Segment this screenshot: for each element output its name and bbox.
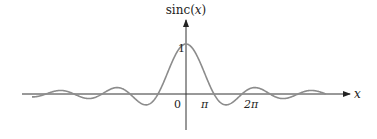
y-axis-label: sinc(x) [166, 3, 207, 17]
x-axis-label: x [354, 87, 361, 101]
x-tick-2pi: 2π [243, 98, 259, 111]
y-tick-1: 1 [178, 42, 185, 55]
sinc-plot: sinc(x) x 1 0 π 2π [0, 0, 377, 139]
x-tick-pi: π [200, 98, 209, 111]
x-tick-origin: 0 [174, 98, 181, 111]
